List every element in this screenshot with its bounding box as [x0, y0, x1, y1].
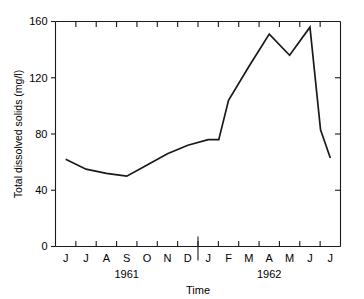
- x-month-label-1: J: [83, 252, 89, 264]
- x-month-label-7: J: [205, 252, 211, 264]
- x-month-label-9: M: [244, 252, 253, 264]
- chart-figure: 04080120160 JJASONDJFMAMJJ 1961 1962 Tim…: [0, 0, 364, 299]
- x-month-label-10: A: [266, 252, 274, 264]
- y-tick-label-0: 0: [41, 240, 47, 252]
- y-tick-label-40: 40: [35, 184, 47, 196]
- x-month-label-6: D: [184, 252, 192, 264]
- x-axis-title: Time: [186, 284, 210, 296]
- y-tick-label-120: 120: [29, 72, 47, 84]
- x-month-label-5: N: [163, 252, 171, 264]
- x-month-label-0: J: [63, 252, 69, 264]
- year-label-1962: 1962: [257, 268, 281, 280]
- y-tick-label-80: 80: [35, 128, 47, 140]
- x-month-label-3: S: [123, 252, 130, 264]
- line-chart: 04080120160 JJASONDJFMAMJJ 1961 1962 Tim…: [0, 0, 364, 299]
- x-month-label-13: J: [328, 252, 334, 264]
- x-month-label-2: A: [103, 252, 111, 264]
- y-tick-label-160: 160: [29, 15, 47, 27]
- x-month-label-8: F: [225, 252, 232, 264]
- x-month-label-12: J: [307, 252, 313, 264]
- x-month-label-4: O: [143, 252, 152, 264]
- year-label-1961: 1961: [115, 268, 139, 280]
- x-month-label-11: M: [285, 252, 294, 264]
- y-axis-title: Total dissolved solids (mg/l): [12, 70, 24, 198]
